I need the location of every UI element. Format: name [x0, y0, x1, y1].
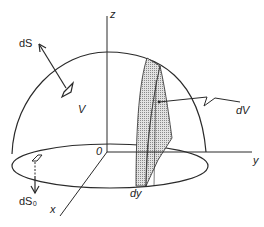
- ds0-label: dS₀: [19, 196, 37, 207]
- volume-label: V: [78, 104, 85, 115]
- dv-leader: [159, 97, 240, 106]
- x-axis: [60, 152, 107, 216]
- dy-label: dy: [130, 188, 142, 199]
- dv-label: dV: [236, 105, 249, 116]
- ds0-element-icon: [32, 155, 42, 161]
- z-axis-label: z: [110, 9, 116, 20]
- hemisphere-diagram: z y x 0 dS dS₀ V dV dy: [0, 0, 264, 227]
- base-ellipse: [12, 144, 208, 188]
- ds-label: dS: [19, 38, 32, 49]
- y-axis-label: y: [253, 155, 259, 166]
- x-axis-label: x: [50, 204, 56, 215]
- origin-label: 0: [96, 146, 102, 157]
- hemisphere-dome: [12, 52, 206, 154]
